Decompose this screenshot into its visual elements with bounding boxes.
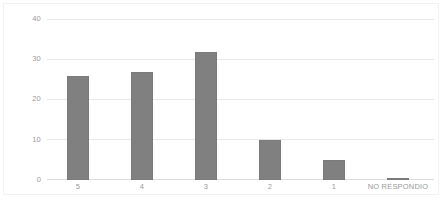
x-tick-label-3: 3 (186, 183, 226, 191)
bar-4[interactable] (131, 72, 153, 180)
y-tick-label: 20 (32, 95, 41, 103)
x-tick-label-5: 5 (58, 183, 98, 191)
x-axis-tick-labels: 5 4 3 2 1 NO RESPONDIO (47, 183, 434, 195)
bar-2[interactable] (259, 140, 281, 180)
y-tick-label: 40 (32, 15, 41, 23)
x-tick-label-no-respondio: NO RESPONDIO (362, 183, 434, 191)
bar-slot (259, 19, 281, 180)
chart-screenshot: 40 30 20 10 0 (0, 0, 443, 214)
bar-slot (387, 19, 409, 180)
x-tick-label-4: 4 (122, 183, 162, 191)
bar-no-respondio[interactable] (387, 178, 409, 180)
x-tick-label-2: 2 (250, 183, 290, 191)
bar-slot (323, 19, 345, 180)
chart-frame: 40 30 20 10 0 (3, 3, 439, 195)
bar-1[interactable] (323, 160, 345, 180)
y-axis-tick-labels: 40 30 20 10 0 (7, 19, 41, 180)
y-tick-label: 0 (37, 176, 41, 184)
bar-slot (195, 19, 217, 180)
bar-3[interactable] (195, 52, 217, 180)
bar-slot (67, 19, 89, 180)
y-tick-label: 10 (32, 136, 41, 144)
bar-slot (131, 19, 153, 180)
y-tick-label: 30 (32, 55, 41, 63)
x-tick-label-1: 1 (314, 183, 354, 191)
bar-5[interactable] (67, 76, 89, 180)
bar-series (47, 19, 434, 180)
